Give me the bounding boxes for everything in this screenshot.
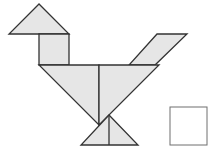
tangram-diagram — [0, 0, 215, 152]
tail-parallelogram — [129, 34, 187, 65]
body-left-triangle — [39, 65, 99, 125]
neck-square — [39, 34, 69, 65]
head-triangle — [9, 4, 69, 34]
answer-box — [170, 107, 207, 145]
